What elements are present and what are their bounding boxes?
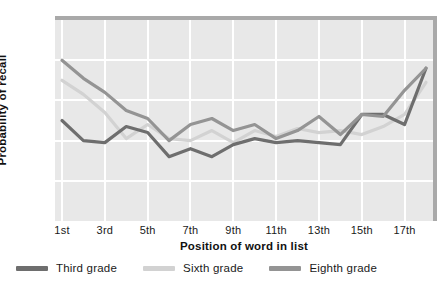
x-tick-label: 5th <box>128 224 168 236</box>
data-lines <box>55 20 433 221</box>
x-tick-label: 15th <box>342 224 382 236</box>
x-tick-label: 7th <box>170 224 210 236</box>
x-tick-label: 1st <box>42 224 82 236</box>
legend-label: Sixth grade <box>183 262 243 274</box>
x-tick-label: 3rd <box>85 224 125 236</box>
y-axis-title: Probability of recall <box>0 30 8 190</box>
legend-swatch-icon <box>269 266 301 271</box>
x-tick-label: 17th <box>385 224 425 236</box>
legend-swatch-icon <box>16 266 48 271</box>
legend-item[interactable]: Third grade <box>16 262 117 274</box>
x-axis-title: Position of word in list <box>55 240 433 252</box>
series-line-third-grade <box>62 68 426 156</box>
chart-legend: Third gradeSixth gradeEighth grade <box>16 262 403 274</box>
x-tick-label: 11th <box>256 224 296 236</box>
x-tick-label: 9th <box>213 224 253 236</box>
legend-swatch-icon <box>143 266 175 271</box>
plot-area <box>55 20 433 221</box>
legend-label: Eighth grade <box>309 262 377 274</box>
legend-item[interactable]: Sixth grade <box>143 262 243 274</box>
x-tick-label: 13th <box>299 224 339 236</box>
y-axis-title-container: Probability of recall <box>0 0 16 40</box>
legend-label: Third grade <box>56 262 117 274</box>
serial-position-chart: Probability of recall 20406080 1st3rd5th… <box>0 0 437 288</box>
legend-item[interactable]: Eighth grade <box>269 262 377 274</box>
